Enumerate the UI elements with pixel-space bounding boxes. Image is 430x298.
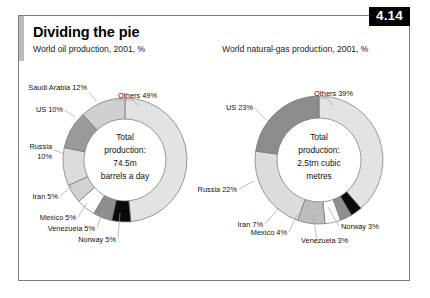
chart-subtitle-gas: World natural-gas production, 2001, % (222, 44, 369, 54)
oil-label-mexico: Mexico 5% (40, 213, 77, 222)
gas-label-norway: Norway 3% (341, 222, 379, 231)
oil-label-saudi: Saudi Arabia 12% (28, 83, 87, 92)
figure-panel: 4.14 Dividing the pie World oil producti… (18, 15, 410, 281)
oil-label-us: US 10% (36, 105, 64, 114)
leader-gas-us (255, 108, 266, 120)
gas-center-line-1: Total (310, 132, 328, 142)
oil-center-line-2: production: (104, 145, 145, 155)
oil-center-line-3: 74.5m (113, 158, 136, 168)
oil-label-russia-line1: Russia (29, 142, 52, 151)
gas-label-mexico: Mexico 4% (251, 228, 288, 237)
gas-label-us: US 23% (226, 103, 254, 112)
gas-center-line-4: metres (306, 171, 332, 181)
leader-gas-iran (265, 208, 279, 224)
gas-center-line-2: production: (298, 145, 339, 155)
oil-label-iran: Iran 5% (33, 192, 59, 201)
oil-center-line-1: Total (116, 132, 134, 142)
oil-label-norway: Norway 5% (78, 235, 116, 244)
gas-donut-svg: Others 39% US 23% Russia 22% Iran 7% Mex… (209, 56, 409, 266)
leader-oil-us (65, 110, 75, 117)
figure-number-badge: 4.14 (369, 7, 410, 26)
gas-center-line-3: 2.5trn cubic (297, 158, 340, 168)
oil-label-venezuela: Venezuela 5% (48, 224, 96, 233)
gas-donut-chart: Others 39% US 23% Russia 22% Iran 7% Mex… (209, 56, 409, 266)
gas-label-others: Others 39% (314, 89, 353, 98)
oil-label-russia-line2: 10% (37, 152, 52, 161)
leader-oil-saudi (89, 92, 96, 101)
oil-center-line-4: barrels a day (101, 171, 150, 181)
accent-bar (19, 16, 24, 61)
oil-donut-svg: Others 49% Saudi Arabia 12% US 10% Russi… (21, 56, 217, 266)
gas-label-russia: Russia 22% (198, 185, 238, 194)
leader-oil-iran (60, 186, 72, 196)
leader-gas-russia (239, 181, 254, 189)
oil-donut-chart: Others 49% Saudi Arabia 12% US 10% Russi… (21, 56, 217, 266)
page-title: Dividing the pie (33, 24, 139, 40)
gas-label-venezuela: Venezuela 3% (301, 236, 349, 245)
oil-label-others: Others 49% (118, 91, 157, 100)
chart-subtitle-oil: World oil production, 2001, % (33, 44, 145, 54)
